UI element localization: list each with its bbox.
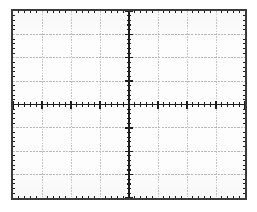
graticule-frame <box>11 9 247 200</box>
graticule-grid <box>13 11 245 198</box>
graticule-plane <box>13 11 245 198</box>
oscilloscope-screenshot <box>0 0 257 212</box>
